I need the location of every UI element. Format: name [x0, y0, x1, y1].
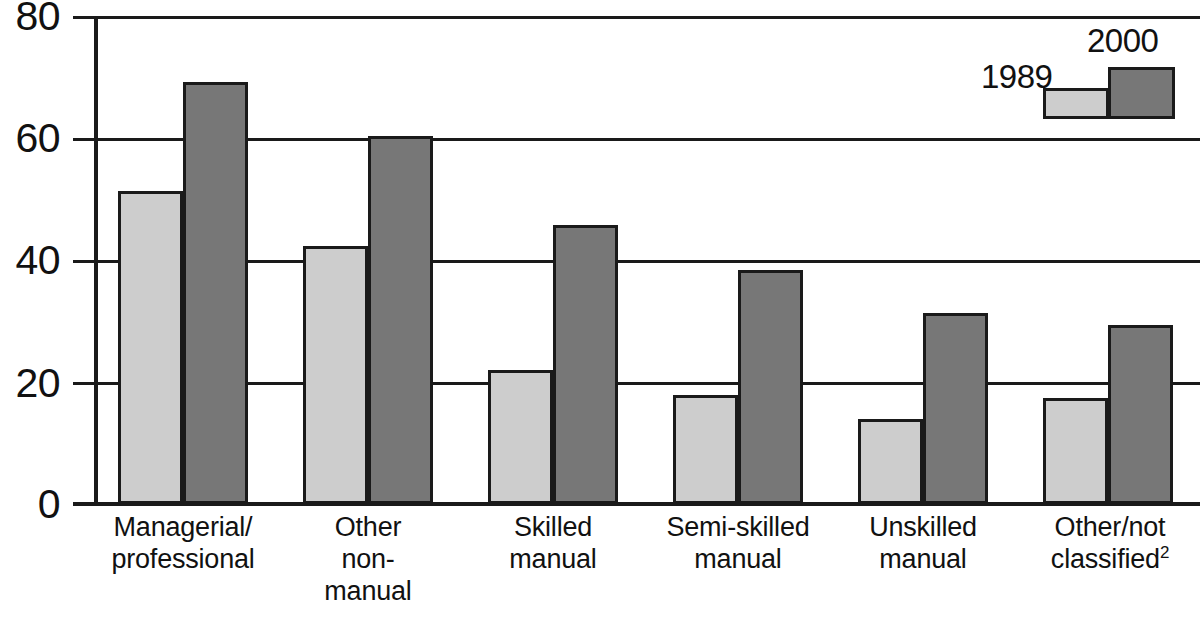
bar-group-semi-skilled-manual — [673, 0, 803, 504]
x-label-line: manual — [509, 544, 596, 574]
bar-group-skilled-manual — [488, 0, 618, 504]
bar-1989-semi-skilled-manual — [673, 395, 738, 504]
x-label-skilled-manual: Skilled manual — [473, 512, 633, 576]
bar-1989-other-not-classified — [1043, 398, 1108, 504]
x-label-line: non- — [341, 544, 394, 574]
bar-2000-other-not-classified — [1108, 325, 1173, 504]
bar-chart: 80 60 40 20 0 — [0, 0, 1200, 618]
x-label-managerial-professional: Managerial/ professional — [98, 512, 268, 576]
bar-group-managerial-professional — [118, 0, 248, 504]
bar-2000-managerial-professional — [183, 82, 248, 504]
legend-swatch-2000 — [1108, 67, 1175, 119]
bar-1989-other-non-manual — [303, 246, 368, 504]
x-label-line: Skilled — [514, 512, 592, 542]
x-label-line: manual — [324, 576, 411, 606]
legend-label-1989: 1989 — [981, 60, 1052, 93]
footnote-marker: 2 — [1160, 543, 1169, 562]
x-label-line: Unskilled — [869, 512, 977, 542]
bar-2000-skilled-manual — [553, 225, 618, 504]
bar-2000-other-non-manual — [368, 136, 433, 504]
legend: 1989 2000 — [975, 22, 1190, 122]
bar-1989-managerial-professional — [118, 191, 183, 504]
bar-1989-unskilled-manual — [858, 419, 923, 504]
x-label-line: Semi-skilled — [666, 512, 809, 542]
x-label-other-non-manual: Other non- manual — [288, 512, 448, 608]
x-label-line: manual — [694, 544, 781, 574]
x-label-other-not-classified: Other/not classified2 — [1025, 512, 1195, 576]
bar-group-other-non-manual — [303, 0, 433, 504]
x-label-semi-skilled-manual: Semi-skilled manual — [653, 512, 823, 576]
bar-1989-skilled-manual — [488, 370, 553, 504]
x-label-line: Other/not — [1055, 512, 1166, 542]
x-label-line: professional — [111, 544, 254, 574]
x-label-unskilled-manual: Unskilled manual — [843, 512, 1003, 576]
legend-swatch-1989 — [1043, 88, 1109, 119]
x-label-line: manual — [879, 544, 966, 574]
x-label-line: Managerial/ — [114, 512, 253, 542]
bar-2000-semi-skilled-manual — [738, 270, 803, 504]
x-label-line: classified — [1051, 544, 1160, 574]
bar-2000-unskilled-manual — [923, 313, 988, 504]
x-label-line: Other — [335, 512, 402, 542]
bar-group-unskilled-manual — [858, 0, 988, 504]
x-axis-labels: Managerial/ professional Other non- manu… — [0, 512, 1200, 618]
legend-label-2000: 2000 — [1087, 24, 1158, 57]
